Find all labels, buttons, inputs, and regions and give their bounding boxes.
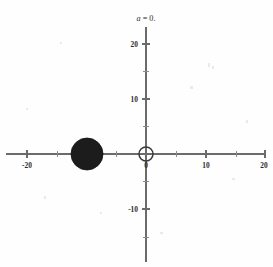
x-tick-label-10: 10 [202, 161, 210, 170]
y-tick-label-20: 20 [131, 40, 139, 49]
plot-canvas: -20 0 10 20 20 10 -10 a = 0. [0, 0, 273, 267]
plot-parameter-value: = 0. [141, 14, 156, 23]
plot-parameter-label: a = 0. [137, 14, 156, 23]
x-tick-label-20: 20 [260, 161, 268, 170]
data-marker-large-disk [71, 138, 103, 170]
x-tick-label-neg20: -20 [22, 161, 32, 170]
y-tick-label-neg10: -10 [128, 205, 138, 214]
plot-figure: -20 0 10 20 20 10 -10 a = 0. [0, 0, 273, 267]
y-tick-label-10: 10 [131, 95, 139, 104]
x-tick-label-zero: 0 [144, 161, 148, 170]
